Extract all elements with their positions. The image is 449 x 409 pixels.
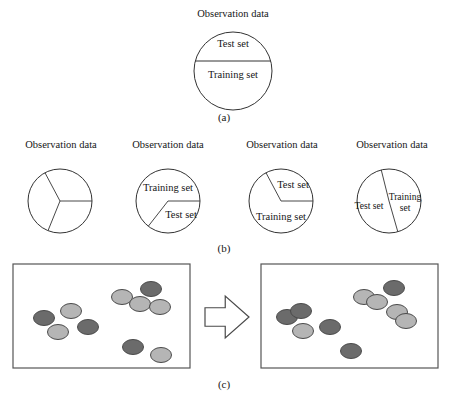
- before-panel-marker-9: [123, 340, 144, 355]
- before-panel-marker-3: [48, 325, 69, 340]
- after-panel-marker-6: [367, 295, 388, 310]
- panel-b4-set-word-label: set: [400, 203, 411, 213]
- before-panel-marker-1: [34, 311, 55, 326]
- caption-a: (a): [218, 112, 230, 124]
- before-panel-marker-7: [141, 282, 162, 297]
- panel-a-observation-label: Observation data: [197, 8, 268, 19]
- panel-b3-observation-label: Observation data: [246, 139, 317, 150]
- before-panel-marker-6: [130, 297, 151, 312]
- after-panel-marker-4: [320, 320, 341, 335]
- panel-a-training-set-label: Training set: [208, 69, 258, 80]
- after-panel-marker-2: [291, 304, 312, 319]
- panel-b4-sector-line-2: [389, 201, 398, 232]
- after-panel-marker-7: [384, 281, 405, 296]
- after-panel-marker-10: [341, 344, 362, 359]
- after-panel-marker-9: [396, 314, 417, 329]
- panel-b4-training-word-label: Training: [389, 192, 422, 202]
- before-panel-marker-10: [151, 348, 172, 363]
- panel-b2-training-set-label: Training set: [143, 182, 193, 193]
- figure-container: Observation data Test set Training set (…: [0, 0, 449, 409]
- panel-b4-observation-label: Observation data: [356, 139, 427, 150]
- panel-b2-test-set-label: Test set: [165, 209, 197, 220]
- panel-b2-observation-label: Observation data: [132, 139, 203, 150]
- before-panel-marker-2: [61, 304, 82, 319]
- panel-a-test-set-label: Test set: [217, 38, 249, 49]
- panel-b3-test-set-label: Test set: [277, 179, 309, 190]
- panel-b1-sector-line-2: [45, 173, 60, 201]
- caption-c: (c): [218, 379, 230, 391]
- before-panel-marker-8: [150, 300, 171, 315]
- panel-b3-training-set-label: Training set: [256, 211, 306, 222]
- after-panel-marker-3: [293, 324, 314, 339]
- panel-b1-sector-line-3: [48, 201, 60, 231]
- before-panel-marker-4: [78, 320, 99, 335]
- panel-b1-observation-label: Observation data: [25, 139, 96, 150]
- panel-b4-test-set-label: Test set: [355, 201, 384, 211]
- transform-arrow-icon: [205, 296, 249, 338]
- caption-b: (b): [218, 243, 231, 255]
